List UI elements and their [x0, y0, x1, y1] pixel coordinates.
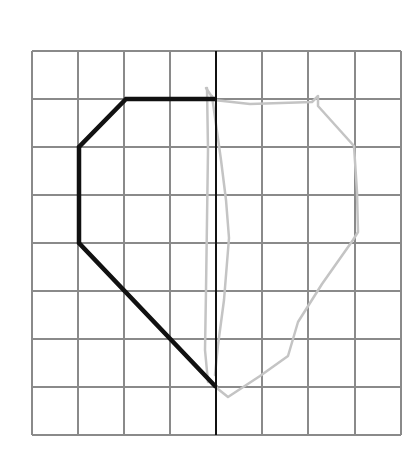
symmetry-worksheet — [0, 0, 419, 465]
grid-diagram — [0, 0, 419, 465]
sketch-stroke — [212, 96, 229, 375]
sketch-stroke — [205, 88, 208, 382]
